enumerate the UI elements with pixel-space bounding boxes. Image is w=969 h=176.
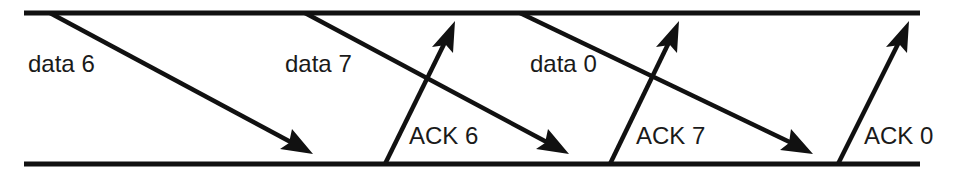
- timeline-diagram: [0, 0, 969, 176]
- label-ack-7: ACK 7: [636, 124, 705, 148]
- label-data-6: data 6: [28, 52, 95, 76]
- label-ack-6: ACK 6: [409, 124, 478, 148]
- label-ack-0: ACK 0: [864, 124, 933, 148]
- label-data-7: data 7: [285, 52, 352, 76]
- label-data-0: data 0: [530, 52, 597, 76]
- arrow-data-6: [50, 13, 313, 154]
